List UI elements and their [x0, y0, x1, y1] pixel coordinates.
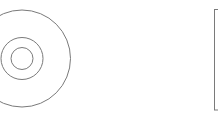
diagram-canvas: [0, 0, 218, 125]
inner-ring: [11, 48, 33, 70]
middle-ring: [1, 38, 43, 80]
disc-icon: [0, 10, 71, 107]
rectangle-box: [215, 10, 219, 111]
